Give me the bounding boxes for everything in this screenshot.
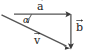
- vector-label-a: a: [37, 1, 44, 12]
- vector-label-b-text: b: [76, 21, 83, 34]
- vector-overarrow-b: [76, 19, 83, 22]
- vector-label-b: b: [76, 22, 83, 33]
- vector-label-v-text: v: [34, 34, 40, 47]
- vector-b-arrow: [68, 14, 74, 49]
- vector-label-a-text: a: [37, 0, 44, 13]
- vector-overarrow-a: [37, 0, 44, 1]
- vector-label-v: v: [34, 35, 40, 46]
- vector-overarrow-v: [34, 32, 40, 35]
- vector-diagram: a b v α: [0, 0, 89, 56]
- angle-label-alpha: α: [23, 16, 29, 25]
